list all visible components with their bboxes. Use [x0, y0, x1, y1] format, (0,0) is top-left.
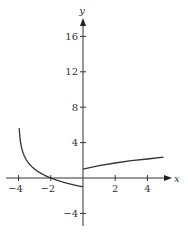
x-tick-label: 4 [144, 183, 150, 194]
y-tick-label: 16 [65, 31, 78, 42]
y-tick-label: −4 [63, 208, 78, 219]
y-tick-label: 12 [65, 66, 78, 77]
x-axis-label: x [174, 173, 180, 184]
axis-labels: −4−224161284−4xy [8, 5, 180, 219]
x-tick-label: −4 [8, 183, 23, 194]
axes [6, 20, 170, 226]
chart: −4−224161284−4xy [0, 0, 188, 234]
x-tick-label: −2 [40, 183, 55, 194]
y-tick-label: 8 [72, 102, 78, 113]
y-tick-label: 4 [72, 137, 78, 148]
curve-right [83, 157, 164, 169]
x-tick-label: 2 [112, 183, 118, 194]
plot-area: −4−224161284−4xy [0, 0, 188, 234]
y-axis-label: y [78, 5, 85, 16]
